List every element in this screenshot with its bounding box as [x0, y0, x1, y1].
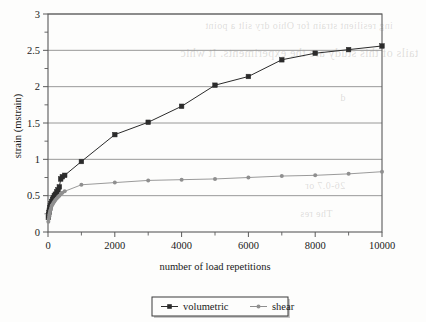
y-tick-label: 2	[35, 81, 40, 92]
y-axis-tick-labels: 00.511.522.53	[27, 9, 40, 238]
data-point-marker	[346, 47, 351, 52]
x-tick-label: 8000	[305, 240, 326, 251]
y-tick-label: 1	[35, 154, 40, 165]
data-point-marker	[179, 104, 184, 109]
legend-marker-shear	[257, 305, 261, 309]
legend-marker-volumetric	[167, 304, 172, 309]
data-series-layer	[46, 44, 384, 224]
series-shear	[46, 170, 384, 224]
data-point-marker	[280, 174, 284, 178]
series-volumetric	[46, 44, 384, 220]
x-axis-title: number of load repetitions	[159, 261, 270, 272]
legend-label-volumetric: volumetric	[183, 301, 229, 312]
data-point-marker	[347, 172, 351, 176]
data-point-marker	[113, 181, 117, 185]
data-point-marker	[79, 159, 84, 164]
gridlines	[48, 14, 382, 196]
x-tick-label: 6000	[238, 240, 259, 251]
y-tick-label: 0	[35, 227, 40, 238]
y-tick-label: 1.5	[27, 118, 40, 129]
data-point-marker	[313, 173, 317, 177]
data-point-marker	[63, 189, 67, 193]
data-point-marker	[280, 57, 285, 62]
x-axis-tick-labels: 0200040006000800010000	[45, 240, 395, 251]
chart-legend[interactable]: volumetricshear	[152, 297, 295, 318]
data-point-marker	[79, 183, 83, 187]
y-major-ticks	[43, 14, 48, 232]
x-tick-label: 4000	[171, 240, 192, 251]
y-tick-label: 3	[35, 9, 40, 20]
data-point-marker	[246, 176, 250, 180]
data-point-marker	[180, 178, 184, 182]
data-point-marker	[146, 120, 151, 125]
figure-canvas: ing resilient strain for Ohio dry silt a…	[0, 0, 426, 322]
data-point-marker	[246, 74, 251, 79]
data-point-marker	[57, 185, 62, 190]
chart-svg: 0200040006000800010000 00.511.522.53 num…	[0, 0, 426, 322]
data-point-marker	[62, 173, 67, 178]
y-tick-label: 2.5	[27, 45, 40, 56]
y-axis-title: strain (mstrain)	[12, 93, 24, 158]
data-point-marker	[380, 44, 385, 49]
x-tick-label: 2000	[104, 240, 125, 251]
data-point-marker	[213, 83, 218, 88]
legend-label-shear: shear	[272, 301, 295, 312]
x-tick-label: 0	[45, 240, 50, 251]
data-point-marker	[380, 170, 384, 174]
data-point-marker	[146, 178, 150, 182]
data-point-marker	[113, 132, 118, 137]
x-tick-label: 10000	[369, 240, 395, 251]
data-point-marker	[213, 177, 217, 181]
data-point-marker	[313, 51, 318, 56]
y-tick-label: 0.5	[27, 190, 40, 201]
